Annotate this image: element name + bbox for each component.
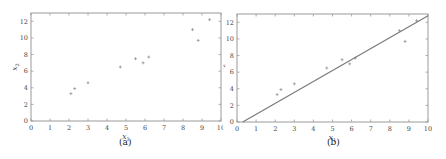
y-tick-label: 8 xyxy=(24,51,28,59)
x-tick-label: 2 xyxy=(273,125,277,133)
data-point-marker xyxy=(69,92,72,95)
x-tick-label: 5 xyxy=(124,124,128,132)
x-tick-label: 6 xyxy=(350,125,354,133)
y-tick-label: 10 xyxy=(226,35,234,43)
y-axis-label: x2 xyxy=(10,63,20,70)
y-tick-label: 2 xyxy=(24,101,28,109)
data-point-marker xyxy=(348,62,351,65)
x-tick-label: 3 xyxy=(292,125,296,133)
data-point-marker xyxy=(208,18,211,21)
scatter-plot-b: 012345678910024681012x1x2 xyxy=(223,0,446,159)
x-tick-label: 8 xyxy=(181,124,185,132)
data-point-marker xyxy=(325,67,328,70)
data-point-marker xyxy=(119,66,122,69)
data-point-marker xyxy=(276,93,279,96)
x-tick-label: 7 xyxy=(369,125,373,133)
y-tick-label: 8 xyxy=(230,52,234,60)
caption-a: (a) xyxy=(119,137,131,147)
data-point-marker xyxy=(341,58,344,61)
data-point-marker xyxy=(191,28,194,31)
x-tick-label: 10 xyxy=(424,125,432,133)
x-tick-label: 4 xyxy=(311,125,315,133)
caption-b: (b) xyxy=(327,137,340,147)
y-tick-label: 0 xyxy=(24,117,28,125)
y-tick-label: 6 xyxy=(24,67,28,75)
x-tick-label: 4 xyxy=(105,124,109,132)
y-tick-label: 12 xyxy=(20,18,28,26)
x-tick-label: 9 xyxy=(407,125,411,133)
y-tick-label: 6 xyxy=(230,68,234,76)
y-tick-label: 4 xyxy=(24,84,28,92)
y-axis-label: x2 xyxy=(223,64,226,71)
y-tick-label: 2 xyxy=(230,102,234,110)
x-tick-label: 1 xyxy=(254,125,258,133)
data-point-marker xyxy=(87,81,90,84)
x-tick-label: 1 xyxy=(48,124,52,132)
panel-b: 012345678910024681012x1x2 (b) xyxy=(223,0,446,159)
x-tick-label: 2 xyxy=(67,124,71,132)
x-tick-label: 0 xyxy=(235,125,239,133)
x-tick-label: 3 xyxy=(86,124,90,132)
y-tick-label: 4 xyxy=(230,85,234,93)
data-point-marker xyxy=(142,61,145,64)
y-tick-label: 10 xyxy=(20,34,28,42)
data-point-marker xyxy=(147,56,150,59)
x-tick-label: 9 xyxy=(200,124,204,132)
data-point-marker xyxy=(279,88,282,91)
data-point-marker xyxy=(197,39,200,42)
data-point-marker xyxy=(73,87,76,90)
x-tick-label: 7 xyxy=(162,124,166,132)
data-point-marker xyxy=(134,57,137,60)
x-tick-label: 0 xyxy=(29,124,33,132)
panel-a: 012345678910024681012x1x2 (a) xyxy=(0,0,223,159)
y-tick-label: 12 xyxy=(226,19,234,27)
x-tick-label: 6 xyxy=(143,124,147,132)
data-point-marker xyxy=(293,82,296,85)
scatter-plot-a: 012345678910024681012x1x2 xyxy=(0,0,223,159)
x-tick-label: 8 xyxy=(388,125,392,133)
y-tick-label: 0 xyxy=(230,118,234,126)
data-point-marker xyxy=(404,40,407,43)
fitted-line xyxy=(243,16,428,122)
x-tick-label: 5 xyxy=(330,125,334,133)
